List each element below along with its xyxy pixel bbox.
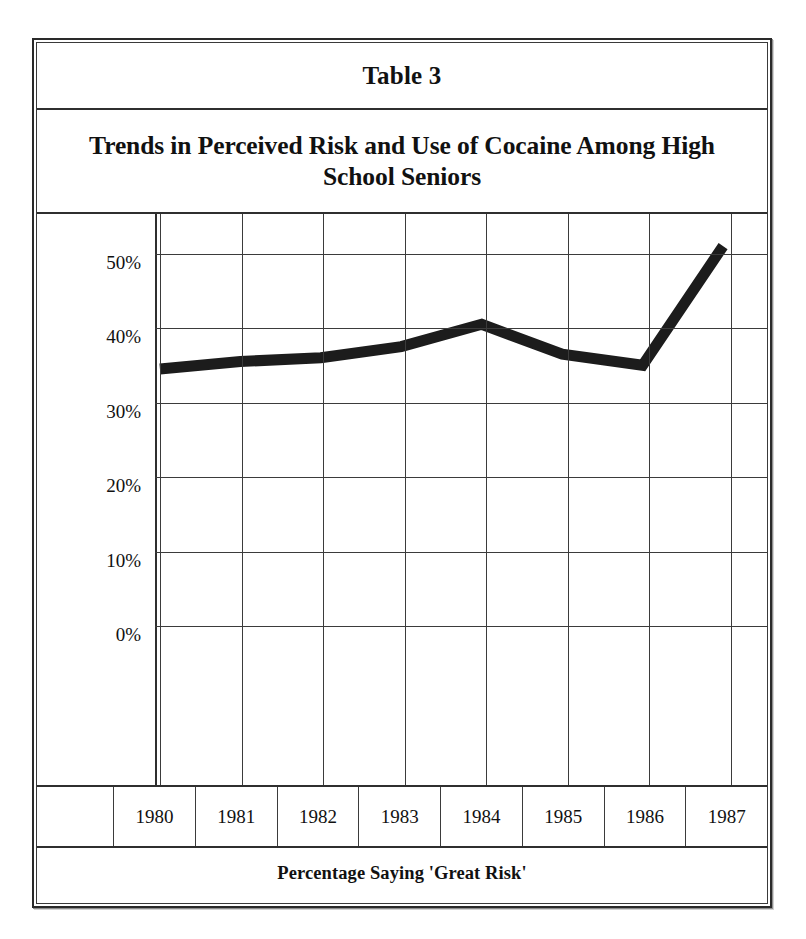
gridline-vertical <box>405 214 406 785</box>
x-axis-year-cells: 19801981198219831984198519861987 <box>114 787 767 846</box>
chart-plot-band: 50%40%30%20%10%0% <box>37 214 767 785</box>
chart-caption-label: Percentage Saying 'Great Risk' <box>277 863 526 884</box>
y-axis-tick-label: 20% <box>106 475 141 497</box>
x-axis-year-cell: 1987 <box>686 787 767 846</box>
table-title-row: Trends in Perceived Risk and Use of Coca… <box>37 110 767 214</box>
table-number-row: Table 3 <box>37 43 767 110</box>
x-axis-year-cell: 1983 <box>359 787 441 846</box>
table-inner-frame: Table 3 Trends in Perceived Risk and Use… <box>36 42 768 904</box>
x-axis-year-cell: 1981 <box>196 787 278 846</box>
y-axis-tick-label: 10% <box>106 550 141 572</box>
x-axis-corner-cell <box>37 787 114 846</box>
y-axis-tick-label: 40% <box>106 326 141 348</box>
gridline-horizontal <box>155 552 767 553</box>
gridline-vertical <box>486 214 487 785</box>
data-series-line <box>155 214 767 785</box>
gridline-horizontal <box>155 328 767 329</box>
x-axis-year-cell: 1985 <box>523 787 605 846</box>
gridline-vertical <box>731 214 732 785</box>
gridline-horizontal <box>155 254 767 255</box>
table-outer-frame: Table 3 Trends in Perceived Risk and Use… <box>32 38 772 908</box>
x-axis-year-cell: 1984 <box>441 787 523 846</box>
gridline-horizontal <box>155 626 767 627</box>
gridline-vertical <box>568 214 569 785</box>
table-number-label: Table 3 <box>363 62 442 90</box>
gridline-vertical <box>242 214 243 785</box>
gridline-horizontal <box>155 403 767 404</box>
x-axis-year-row: 19801981198219831984198519861987 <box>37 785 767 848</box>
y-axis-tick-label: 30% <box>106 401 141 423</box>
x-axis-year-cell: 1980 <box>114 787 196 846</box>
gridline-vertical <box>649 214 650 785</box>
x-axis-year-cell: 1986 <box>605 787 687 846</box>
gridline-horizontal <box>155 477 767 478</box>
chart-caption-row: Percentage Saying 'Great Risk' <box>37 844 767 903</box>
y-axis-tick-label: 50% <box>106 252 141 274</box>
gridline-vertical <box>323 214 324 785</box>
x-axis-year-cell: 1982 <box>278 787 360 846</box>
y-axis-tick-label: 0% <box>116 624 141 646</box>
chart-plot-area <box>155 214 767 785</box>
y-axis: 50%40%30%20%10%0% <box>37 214 157 785</box>
gridline-vertical <box>160 214 161 785</box>
page-title: Trends in Perceived Risk and Use of Coca… <box>51 130 753 192</box>
